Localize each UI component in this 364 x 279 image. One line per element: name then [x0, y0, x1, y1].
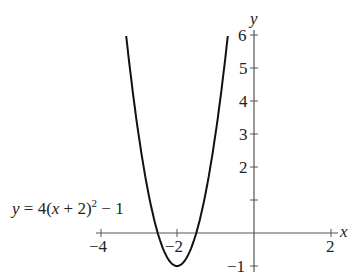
x-tick-label: 2: [326, 237, 335, 256]
y-tick-label: −1: [227, 257, 245, 276]
y-axis-label: y: [248, 9, 258, 28]
x-tick-label: −4: [89, 237, 108, 256]
y-tick-label: 6: [238, 26, 247, 45]
equation-label: y = 4(x + 2)2 − 1: [10, 197, 124, 218]
x-axis-label: x: [339, 222, 348, 241]
y-tick-label: 2: [239, 158, 248, 177]
x-tick-label: −2: [165, 237, 183, 256]
y-tick-label: 3: [239, 125, 248, 144]
parabola-chart: −4 −2 2 6 5 4 3 2 −1 x y y = 4(x + 2)2 −…: [0, 0, 364, 279]
y-tick-label: 5: [239, 59, 248, 78]
y-tick-label: 4: [239, 92, 248, 111]
